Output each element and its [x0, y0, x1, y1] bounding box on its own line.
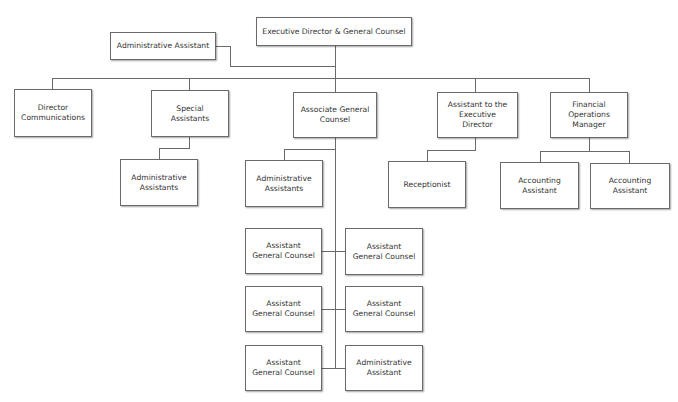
node-special-assistants[interactable]: Special Assistants — [151, 90, 229, 137]
connector — [335, 45, 336, 79]
node-executive-director[interactable]: Executive Director & General Counsel — [256, 17, 412, 46]
connector — [189, 137, 190, 148]
connector — [475, 138, 476, 150]
connector — [284, 149, 285, 160]
node-assistant-to-executive-director[interactable]: Assistant to the Executive Director — [437, 92, 518, 138]
node-accounting-assistant-2[interactable]: Accounting Assistant — [590, 163, 670, 209]
connector — [284, 149, 336, 150]
node-assistant-general-counsel-r2[interactable]: Assistant General Counsel — [345, 286, 423, 332]
node-assistant-general-counsel-l2[interactable]: Assistant General Counsel — [245, 286, 322, 332]
node-special-administrative-assistants[interactable]: Administrative Assistants — [120, 159, 198, 206]
connector — [322, 368, 345, 369]
connector — [589, 78, 590, 92]
connector — [475, 78, 476, 92]
node-receptionist[interactable]: Receptionist — [388, 161, 466, 208]
connector — [427, 150, 428, 161]
connector — [629, 151, 630, 163]
node-financial-operations-manager[interactable]: Financial Operations Manager — [550, 92, 628, 138]
connector — [335, 78, 336, 92]
connector — [52, 78, 589, 79]
org-chart: Executive Director & General Counsel Adm… — [0, 0, 678, 402]
node-administrative-assistant-agc[interactable]: Administrative Assistant — [345, 345, 423, 391]
node-assistant-general-counsel-l3[interactable]: Assistant General Counsel — [245, 345, 322, 391]
connector — [427, 150, 476, 151]
node-administrative-assistant-top[interactable]: Administrative Assistant — [110, 32, 216, 60]
node-agc-administrative-assistants[interactable]: Administrative Assistants — [245, 160, 323, 207]
connector — [589, 138, 590, 151]
node-assistant-general-counsel-l1[interactable]: Assistant General Counsel — [245, 228, 322, 274]
connector — [216, 46, 231, 47]
connector — [540, 151, 630, 152]
connector — [322, 251, 345, 252]
node-assistant-general-counsel-r1[interactable]: Assistant General Counsel — [345, 228, 423, 275]
connector — [189, 78, 190, 90]
node-director-communications[interactable]: Director Communications — [14, 89, 92, 137]
connector — [159, 148, 190, 149]
connector — [159, 148, 160, 159]
connector — [230, 46, 231, 67]
node-accounting-assistant-1[interactable]: Accounting Assistant — [500, 162, 579, 209]
connector — [540, 151, 541, 162]
node-associate-general-counsel[interactable]: Associate General Counsel — [293, 92, 377, 138]
connector — [230, 66, 336, 67]
connector — [335, 138, 336, 368]
connector — [52, 78, 53, 89]
connector — [322, 309, 345, 310]
